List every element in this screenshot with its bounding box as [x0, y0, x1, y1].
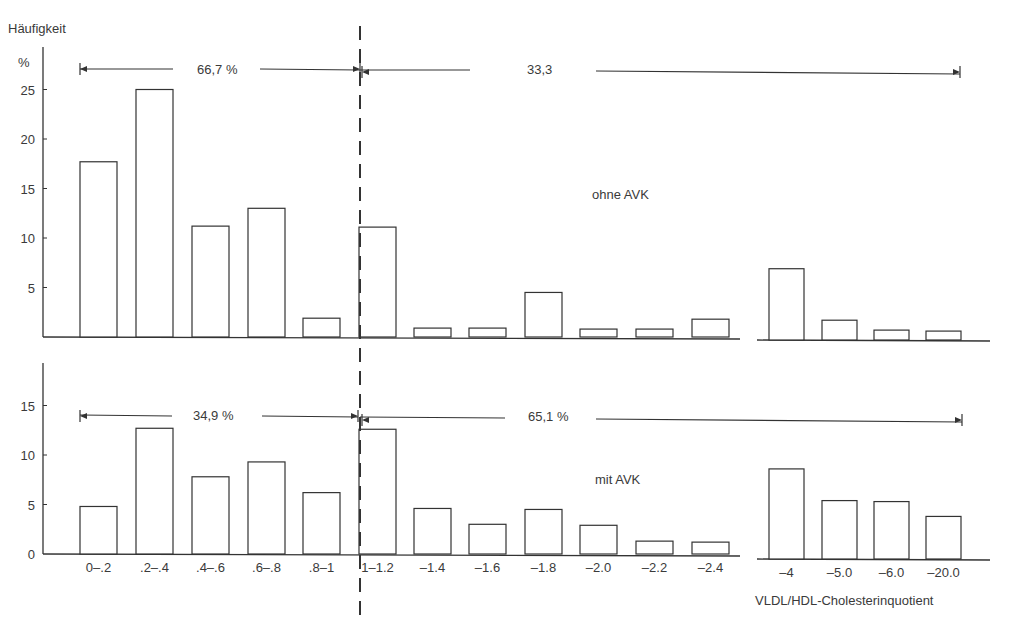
x-tick-label: .4–.6	[196, 560, 225, 575]
y-tick-label: 10	[21, 231, 35, 246]
x-tick-label: –2.0	[586, 560, 611, 575]
histogram-bar	[192, 477, 229, 554]
y-tick-label: 0	[28, 547, 35, 562]
x-tick-label: –20.0	[927, 565, 960, 580]
histogram-bar	[469, 524, 506, 554]
y-tick-label: 15	[21, 399, 35, 414]
bottom-left-percentage: 34,9 %	[193, 408, 234, 423]
x-tick-label: –5.0	[827, 565, 852, 580]
top-right-percentage: 33,3	[527, 62, 552, 77]
range-line	[596, 71, 960, 74]
x-tick-label: .6–.8	[252, 560, 281, 575]
y-tick-label: 5	[28, 498, 35, 513]
histogram-bar	[469, 328, 506, 337]
y-tick-label: 10	[21, 448, 35, 463]
histogram-bar	[136, 428, 173, 554]
top-group-label: ohne AVK	[592, 187, 649, 202]
histogram-bar	[192, 226, 229, 337]
y-axis-title: Häufigkeit	[8, 21, 66, 36]
x-tick-label: –1.8	[531, 560, 556, 575]
chart-geometry: 5101520250510150–.2.2–.4.4–.6.6–.8.8–11–…	[21, 26, 990, 622]
histogram-bar	[80, 506, 117, 554]
range-line	[260, 69, 360, 70]
range-66-7-arrowhead-left	[80, 66, 87, 72]
bottom-right-percentage: 65,1 %	[528, 409, 569, 424]
histogram-bar	[822, 501, 857, 559]
histogram-bar	[692, 319, 729, 337]
x-tick-label: 1–1.2	[361, 560, 394, 575]
histogram-bar	[248, 462, 285, 554]
x-tick-label: –2.4	[698, 560, 723, 575]
histogram-bar	[636, 329, 673, 337]
y-tick-label: 5	[28, 281, 35, 296]
x-tick-label: .2–.4	[140, 560, 169, 575]
histogram-bar	[926, 331, 961, 340]
x-tick-label: –2.2	[642, 560, 667, 575]
histogram-bar	[692, 542, 729, 554]
range-65-1-arrowhead-left	[362, 417, 369, 423]
x-axis-title: VLDL/HDL-Cholesterinquotient	[755, 593, 934, 608]
histogram-bar	[136, 90, 173, 338]
bottom-group-label: mit AVK	[595, 472, 641, 487]
x-tick-label: .8–1	[309, 560, 334, 575]
histogram-bar	[769, 469, 804, 559]
histogram-bar	[580, 329, 617, 337]
range-34-9-arrowhead-left	[80, 413, 87, 419]
histogram-bar	[636, 541, 673, 554]
top-left-percentage: 66,7 %	[197, 62, 238, 77]
histogram-bar	[769, 269, 804, 340]
histogram-bar	[926, 516, 961, 559]
histogram-bar	[303, 318, 340, 337]
histogram-bar	[303, 493, 340, 554]
histogram-bar	[80, 162, 117, 337]
histogram-chart: Häufigkeit % ohne AVK mit AVK VLDL/HDL-C…	[0, 0, 1012, 638]
x-tick-label: 0–.2	[86, 560, 111, 575]
range-line	[596, 419, 962, 422]
histogram-bar	[822, 320, 857, 340]
histogram-bar	[359, 429, 396, 554]
histogram-bar	[414, 508, 451, 554]
histogram-bar	[525, 509, 562, 554]
y-tick-label: 20	[21, 132, 35, 147]
histogram-bar	[525, 292, 562, 337]
range-66-7-arrowhead-right	[353, 66, 360, 72]
x-tick-label: –4	[779, 565, 793, 580]
histogram-bar	[874, 330, 909, 340]
range-line	[80, 415, 172, 416]
histogram-bar	[580, 525, 617, 554]
range-line	[360, 417, 505, 418]
y-tick-label: 15	[21, 182, 35, 197]
y-tick-label: 25	[21, 83, 35, 98]
x-tick-label: –1.6	[475, 560, 500, 575]
y-axis-unit: %	[18, 55, 30, 70]
range-34-9-arrowhead-right	[351, 413, 358, 419]
range-line	[262, 416, 358, 417]
histogram-bar	[414, 328, 451, 337]
x-tick-label: –6.0	[879, 565, 904, 580]
histogram-bar	[248, 208, 285, 337]
x-tick-label: –1.4	[420, 560, 445, 575]
histogram-bar	[874, 502, 909, 559]
histogram-bar	[359, 227, 396, 337]
